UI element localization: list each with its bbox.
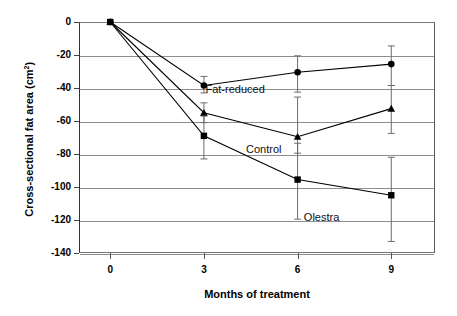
x-tick-mark bbox=[110, 253, 111, 259]
y-tick-mark bbox=[74, 253, 79, 254]
y-tick-mark bbox=[74, 55, 79, 56]
y-tick-label: -20 bbox=[33, 50, 71, 60]
y-tick-label: 0 bbox=[33, 17, 71, 27]
data-point-marker bbox=[201, 133, 207, 139]
series-line bbox=[110, 22, 391, 195]
y-tick-mark bbox=[74, 154, 79, 155]
x-tick-label: 3 bbox=[184, 265, 224, 275]
chart-figure: Cross-sectional fat area (cm2) Months of… bbox=[0, 0, 457, 316]
y-tick-label: -120 bbox=[33, 215, 71, 225]
data-point-marker bbox=[294, 176, 300, 182]
y-tick-mark bbox=[74, 88, 79, 89]
data-point-marker bbox=[107, 19, 113, 25]
series-annotation-control: Control bbox=[246, 144, 281, 155]
data-point-marker bbox=[294, 69, 301, 76]
y-tick-mark bbox=[74, 220, 79, 221]
x-tick-label: 9 bbox=[371, 265, 411, 275]
y-tick-mark bbox=[74, 22, 79, 23]
y-tick-mark bbox=[74, 187, 79, 188]
series-annotation-fat-reduced: Fat-reduced bbox=[205, 84, 264, 95]
data-point-marker bbox=[388, 61, 395, 68]
x-tick-mark bbox=[298, 253, 299, 259]
series-olestra bbox=[107, 19, 394, 199]
data-point-marker bbox=[387, 105, 395, 112]
y-tick-label: -100 bbox=[33, 182, 71, 192]
y-tick-mark bbox=[74, 121, 79, 122]
y-tick-label: -140 bbox=[33, 248, 71, 258]
x-tick-mark bbox=[204, 253, 205, 259]
x-tick-mark bbox=[391, 253, 392, 259]
series-fat-reduced bbox=[107, 19, 395, 89]
series-annotation-olestra: Olestra bbox=[304, 212, 339, 223]
y-tick-label: -60 bbox=[33, 116, 71, 126]
x-tick-label: 0 bbox=[90, 265, 130, 275]
x-tick-label: 6 bbox=[278, 265, 318, 275]
series-line bbox=[110, 22, 391, 86]
data-point-marker bbox=[388, 192, 394, 198]
y-tick-label: -80 bbox=[33, 149, 71, 159]
y-tick-label: -40 bbox=[33, 83, 71, 93]
